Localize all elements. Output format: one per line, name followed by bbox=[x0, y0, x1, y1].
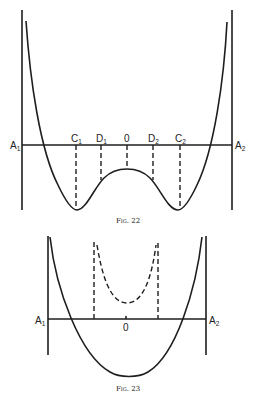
double-well-curve bbox=[26, 21, 227, 210]
dashed-curve bbox=[97, 245, 156, 303]
label-a2: A2 bbox=[235, 140, 246, 152]
figure-22: A1 A2 C1 D1 0 D2 C2 Fig. 22 bbox=[10, 10, 246, 225]
caption-fig-23: Fig. 23 bbox=[116, 385, 140, 393]
label-a1: A1 bbox=[10, 140, 21, 152]
figure-23: A1 A2 0 Fig. 23 bbox=[35, 236, 220, 393]
label-origin: 0 bbox=[123, 322, 129, 333]
label-origin: 0 bbox=[124, 133, 130, 144]
label-a2: A2 bbox=[209, 315, 220, 327]
label-c2: C2 bbox=[175, 133, 186, 145]
figure-canvas: A1 A2 C1 D1 0 D2 C2 Fig. 22 A1 A2 0 Fig.… bbox=[0, 0, 253, 394]
label-d2: D2 bbox=[148, 133, 159, 145]
parabola-curve bbox=[50, 237, 202, 377]
label-c1: C1 bbox=[71, 133, 82, 145]
label-d1: D1 bbox=[96, 133, 107, 145]
label-a1: A1 bbox=[35, 315, 46, 327]
caption-fig-22: Fig. 22 bbox=[116, 217, 140, 225]
